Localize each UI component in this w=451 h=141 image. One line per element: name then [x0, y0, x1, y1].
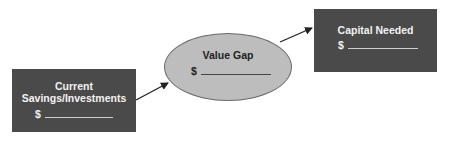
capital-needed-amount: $ [338, 39, 418, 51]
capital-needed-box: Capital Needed $ [314, 9, 437, 72]
arrow-gap-to-capital [280, 28, 312, 42]
arrow-current-to-gap [136, 83, 168, 100]
value-gap-ellipse: Value Gap $ [164, 33, 292, 101]
current-savings-title-line2: Savings/Investments [12, 92, 136, 104]
dollar-sign: $ [191, 65, 197, 77]
value-gap-title: Value Gap [165, 49, 291, 61]
current-savings-title-line1: Current [12, 80, 136, 92]
current-savings-box: Current Savings/Investments $ [12, 69, 136, 132]
amount-blank-line [201, 74, 271, 75]
amount-blank-line [348, 48, 418, 49]
current-savings-amount: $ [35, 108, 113, 120]
amount-blank-line [45, 117, 113, 118]
capital-needed-title: Capital Needed [314, 24, 437, 36]
dollar-sign: $ [35, 108, 41, 120]
dollar-sign: $ [338, 39, 344, 51]
value-gap-amount: $ [191, 65, 271, 77]
